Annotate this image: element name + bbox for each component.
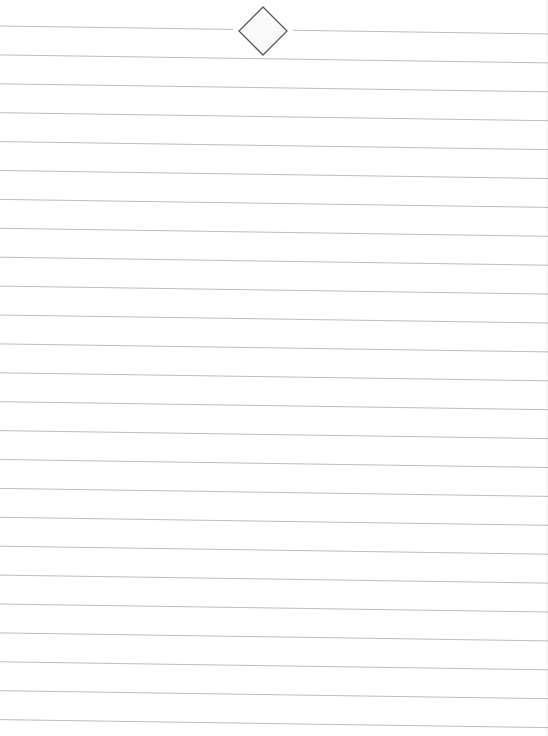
ruled-line: [0, 460, 548, 468]
ruled-line: [0, 286, 548, 294]
ruled-line: [0, 199, 548, 207]
diamond-ornament-icon: [238, 6, 288, 56]
ruled-line: [0, 431, 548, 439]
ruled-line: [0, 488, 548, 496]
ruled-line: [0, 604, 548, 612]
ruled-line: [0, 171, 548, 179]
ruled-line: [0, 344, 548, 352]
ruled-line: [0, 142, 548, 150]
ruled-line: [0, 575, 548, 583]
ruled-line: [0, 546, 548, 554]
ruled-line: [0, 373, 548, 381]
ruled-line: [0, 720, 548, 728]
ruled-line: [0, 691, 548, 699]
ruled-line: [0, 55, 548, 63]
lined-paper-page: [0, 0, 548, 736]
ruled-line: [0, 662, 548, 670]
ruled-line: [0, 228, 548, 236]
ruled-line: [0, 26, 233, 29]
ruled-line: [0, 315, 548, 323]
ruled-line: [0, 84, 548, 92]
ruled-line: [293, 30, 548, 34]
ruled-line: [0, 633, 548, 641]
ruled-line: [0, 402, 548, 410]
ruled-lines: [0, 0, 548, 736]
ruled-line: [0, 517, 548, 525]
ruled-line: [0, 257, 548, 265]
ruled-line: [0, 113, 548, 121]
